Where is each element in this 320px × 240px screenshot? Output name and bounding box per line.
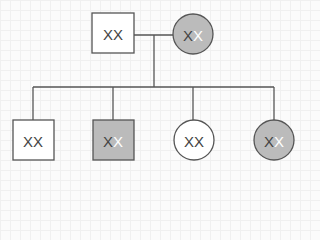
child-4-allele-1: X [264, 133, 274, 150]
mother-allele-1: X [183, 27, 193, 44]
father-allele-2: X [113, 26, 123, 43]
mother-genotype: XX [183, 27, 203, 44]
child-2-allele-1: X [103, 133, 113, 150]
child-2-allele-2: X [113, 133, 123, 150]
child-1-node: XX [13, 120, 54, 160]
child-1-allele-1: X [23, 133, 33, 150]
child-1-genotype: XX [23, 133, 43, 150]
mother-node: XX [173, 14, 213, 54]
child-3-allele-2: X [194, 133, 204, 150]
child-3-genotype: XX [184, 133, 204, 150]
child-4-node: XX [254, 120, 294, 160]
mother-allele-2: X [193, 27, 203, 44]
child-2-genotype: XX [103, 133, 123, 150]
pedigree-diagram: XX XX XX XX XX XX [0, 0, 306, 176]
child-4-allele-2: X [274, 133, 284, 150]
child-4-genotype: XX [264, 133, 284, 150]
child-3-node: XX [174, 120, 214, 160]
father-node: XX [92, 13, 134, 53]
child-3-allele-1: X [184, 133, 194, 150]
father-allele-1: X [103, 26, 113, 43]
child-1-allele-2: X [33, 133, 43, 150]
father-genotype: XX [103, 26, 123, 43]
child-2-node: XX [93, 120, 134, 160]
